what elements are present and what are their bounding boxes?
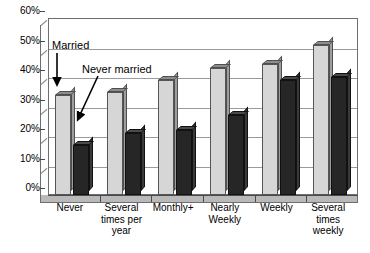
bar-chart: 0%10%20%30%40%50%60% NeverSeveraltimes p…: [0, 0, 370, 253]
annotation-arrows: [0, 0, 370, 253]
arrow-never-married-icon: [79, 76, 98, 117]
